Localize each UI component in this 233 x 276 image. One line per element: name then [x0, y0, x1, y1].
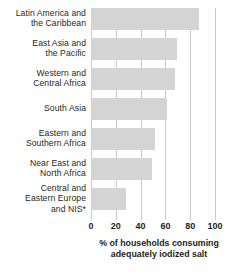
bar-row [91, 38, 215, 60]
gridline [215, 8, 216, 220]
category-label-line: Southern Africa [0, 138, 86, 148]
category-label-line: Latin America and [0, 8, 86, 18]
category-label-line: East Asia and [0, 38, 86, 48]
category-label-line: Near East and [0, 158, 86, 168]
category-label-line: Central and [0, 183, 86, 193]
category-label-line: Eastern and [0, 128, 86, 138]
bar-series [91, 8, 215, 220]
bar [91, 158, 152, 180]
x-tick-label: 60 [160, 221, 170, 232]
x-tick-label: 0 [88, 221, 93, 232]
bar [91, 188, 126, 210]
category-label: Eastern and Southern Africa [0, 128, 86, 149]
category-label-line: the Pacific [0, 48, 86, 58]
category-label: Central and Eastern Europe and NIS* [0, 183, 86, 214]
category-label: South Asia [0, 103, 86, 113]
x-tick-label: 20 [111, 221, 121, 232]
bar-row [91, 8, 215, 30]
bar [91, 38, 177, 60]
category-label-line: Central Africa [0, 78, 86, 88]
x-axis-title-line: % of households consuming [85, 238, 233, 249]
plot-area [91, 8, 215, 220]
x-tick-label: 80 [185, 221, 195, 232]
category-label: East Asia and the Pacific [0, 38, 86, 59]
category-label-line: Western and [0, 68, 86, 78]
category-axis-labels: Latin America and the Caribbean East Asi… [0, 8, 86, 220]
category-label-line: the Caribbean [0, 18, 86, 28]
bar [91, 98, 167, 120]
category-label-line: and NIS* [0, 204, 86, 214]
bar [91, 68, 175, 90]
category-label-line: Eastern Europe [0, 193, 86, 203]
x-axis-title-line: adequately iodized salt [85, 249, 233, 260]
x-tick-label: 40 [136, 221, 146, 232]
bar [91, 8, 199, 30]
bar-row [91, 68, 215, 90]
x-tick-label: 100 [207, 221, 222, 232]
bar [91, 128, 155, 150]
x-axis-title: % of households consuming adequately iod… [85, 238, 233, 260]
bar-row [91, 188, 215, 210]
bar-row [91, 128, 215, 150]
bar-row [91, 158, 215, 180]
category-label-line: North Africa [0, 168, 86, 178]
category-label: Near East and North Africa [0, 158, 86, 179]
bar-row [91, 98, 215, 120]
x-axis-ticks: 020406080100 [91, 221, 215, 234]
bar-chart: Latin America and the Caribbean East Asi… [0, 0, 233, 276]
category-label: Latin America and the Caribbean [0, 8, 86, 29]
category-label-line: South Asia [0, 103, 86, 113]
category-label: Western and Central Africa [0, 68, 86, 89]
